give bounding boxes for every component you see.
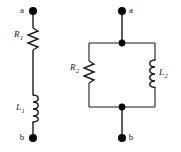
terminal-b-node [29,134,37,142]
inductor-l1-label-sub: 1 [22,107,25,114]
terminal-b-label: b [20,132,25,142]
inductor-l2-label-main: L [158,67,164,77]
inductor-l1-label-main: L [15,102,21,112]
terminal-b-label: b [129,132,134,142]
resistor-r2-label: R 2 [69,62,80,74]
terminal-a-node [118,7,126,15]
terminal-a-label: a [129,5,133,15]
terminal-a-node [29,7,37,15]
resistor-r1-label-main: R [13,29,20,39]
junction-top-node [119,40,126,47]
series-circuit: a b R 1 L 1 [13,5,38,142]
resistor-r1-label-sub: 1 [20,34,23,41]
resistor-r2-label-main: R [69,62,76,72]
parallel-circuit: a b R 2 L 2 [69,5,169,142]
inductor-l1-symbol [33,95,38,122]
inductor-l2-symbol [150,60,155,88]
inductor-l2-label: L 2 [158,67,169,79]
inductor-l1-label: L 1 [15,102,25,114]
resistor-r1-label: R 1 [13,29,23,41]
terminal-a-label: a [20,5,24,15]
terminal-b-node [118,134,126,142]
resistor-r2-label-sub: 2 [76,67,80,74]
resistor-r2-symbol [84,61,94,83]
junction-bottom-node [119,104,126,111]
inductor-l2-label-sub: 2 [165,72,169,79]
circuit-diagram-canvas: a b R 1 L 1 [0,0,181,152]
resistor-r1-symbol [28,28,38,50]
